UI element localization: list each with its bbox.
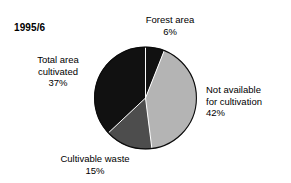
pie-label-forest-area-value: 6%	[133, 26, 207, 38]
pie-label-total-area-cultivated-line2: cultivated	[38, 66, 78, 77]
pie-label-not-available: Not available for cultivation 42%	[206, 84, 290, 119]
pie-svg	[93, 45, 198, 151]
pie-chart	[93, 45, 198, 151]
pie-label-cultivable-waste: Cultivable waste 15%	[45, 153, 145, 176]
pie-label-cultivable-waste-text: Cultivable waste	[60, 153, 129, 164]
pie-label-total-area-cultivated-line1: Total area	[37, 54, 79, 65]
pie-label-forest-area: Forest area 6%	[133, 14, 207, 37]
pie-label-total-area-cultivated: Total area cultivated 37%	[20, 54, 96, 89]
pie-label-cultivable-waste-value: 15%	[45, 165, 145, 177]
period-label: 1995/6	[14, 22, 45, 33]
pie-label-not-available-text-line1: Not available	[206, 84, 261, 95]
pie-label-not-available-text-line2: for cultivation	[206, 96, 262, 107]
pie-label-total-area-cultivated-value: 37%	[20, 77, 96, 89]
pie-label-forest-area-text: Forest area	[146, 14, 195, 25]
pie-label-not-available-value: 42%	[206, 107, 290, 119]
pie-chart-figure: 1995/6 Forest area 6% Not available for …	[0, 0, 291, 183]
